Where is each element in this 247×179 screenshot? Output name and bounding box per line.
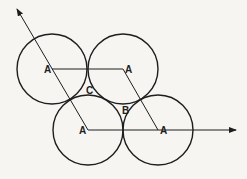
label-c: C [86,85,93,96]
label-b: B [122,105,129,116]
label-a-bottom-right: A [160,125,167,136]
label-a-top-left: A [44,64,51,75]
label-a-bottom-left: A [79,125,86,136]
label-a-top-right: A [125,64,132,75]
connector-diagonal-right [123,69,158,130]
lattice-diagram: A A A A B C [0,0,247,179]
